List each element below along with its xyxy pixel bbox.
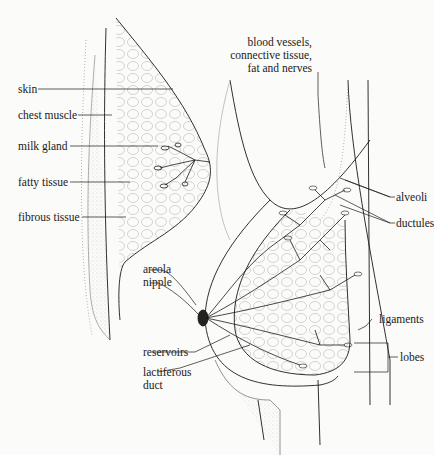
label-skin: skin bbox=[18, 83, 37, 95]
label-nipple: nipple bbox=[143, 276, 172, 288]
label-areola: areola bbox=[143, 263, 171, 275]
label-lobes: lobes bbox=[400, 351, 424, 363]
label-fat-and-nerves: fat and nerves bbox=[248, 62, 313, 74]
label-blood-vessels: blood vessels, bbox=[247, 36, 312, 48]
label-alveoli: alveoli bbox=[396, 191, 427, 203]
right-breast-lactating bbox=[198, 80, 390, 455]
label-lactiferous: lactiferous bbox=[143, 366, 192, 378]
label-reservoirs: reservoirs bbox=[143, 346, 188, 358]
label-chest-muscle: chest muscle bbox=[18, 109, 77, 121]
left-breast-profile bbox=[81, 18, 210, 340]
label-fibrous-tissue: fibrous tissue bbox=[18, 211, 80, 223]
label-ligaments: ligaments bbox=[379, 313, 424, 325]
label-connective-tissue: connective tissue, bbox=[230, 49, 312, 61]
label-duct: duct bbox=[143, 379, 163, 391]
label-milk-gland: milk gland bbox=[18, 140, 68, 152]
label-fatty-tissue: fatty tissue bbox=[18, 176, 68, 188]
label-ductules: ductules bbox=[396, 217, 434, 229]
